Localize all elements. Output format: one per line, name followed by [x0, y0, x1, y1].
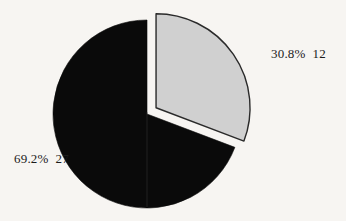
pie-label-dark-slice: 69.2% 27: [14, 152, 69, 165]
pie-label-gray-slice: 30.8% 12: [271, 47, 326, 60]
pie-chart-graphic: [0, 0, 346, 221]
pie-chart-figure: 30.8% 12 69.2% 27: [0, 0, 346, 221]
pie-slice-gray: [156, 14, 250, 141]
